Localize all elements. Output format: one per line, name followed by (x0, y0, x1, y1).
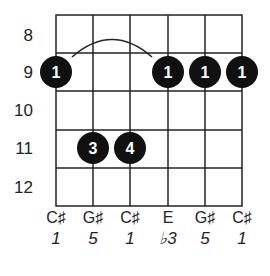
fret-number: 12 (3, 179, 33, 196)
svg-text:3: 3 (89, 140, 98, 157)
interval-label: 1 (41, 230, 71, 247)
interval-label: ♭3 (153, 230, 183, 247)
svg-text:1: 1 (201, 64, 210, 81)
interval-label: 5 (190, 230, 220, 247)
note-label: C♯ (41, 210, 71, 226)
finger-dot: 3 (77, 132, 109, 164)
svg-text:4: 4 (126, 140, 135, 157)
svg-text:1: 1 (52, 64, 61, 81)
fret-number: 8 (3, 27, 33, 44)
fret-number: 10 (3, 102, 33, 119)
interval-label: 5 (78, 230, 108, 247)
note-label: G♯ (78, 210, 108, 226)
barre-arc (72, 40, 152, 58)
note-label: E (153, 210, 183, 226)
svg-text:1: 1 (164, 64, 173, 81)
finger-dot: 1 (152, 56, 184, 88)
finger-dot: 1 (189, 56, 221, 88)
fret-number: 9 (3, 64, 33, 81)
fret-number: 11 (3, 140, 33, 157)
note-label: G♯ (190, 210, 220, 226)
interval-label: 1 (115, 230, 145, 247)
note-label: C♯ (227, 210, 257, 226)
interval-label: 1 (227, 230, 257, 247)
finger-dot: 1 (226, 56, 258, 88)
svg-text:1: 1 (238, 64, 247, 81)
note-label: C♯ (115, 210, 145, 226)
chord-diagram: 1 3 4 1 1 1 8 9 10 11 12 C♯ G♯ C♯ E G♯ C… (0, 0, 270, 276)
finger-dot: 1 (40, 56, 72, 88)
finger-dot: 4 (114, 132, 146, 164)
